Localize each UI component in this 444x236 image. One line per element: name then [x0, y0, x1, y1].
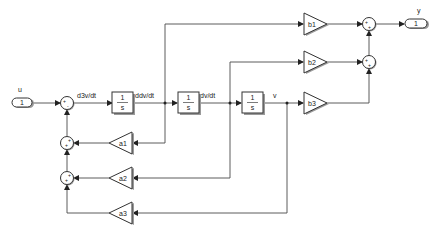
junction-dot: [286, 102, 289, 105]
outport-block[interactable]: 1: [405, 19, 429, 29]
feedback-sum1-block[interactable]: + +: [61, 137, 75, 151]
signal-label-dv: dv/dt: [200, 92, 215, 99]
gain-label: b2: [308, 59, 316, 66]
feedback-sum2-block[interactable]: + +: [61, 172, 75, 186]
junction-dot: [229, 102, 232, 105]
input-sum-block[interactable]: + -: [61, 97, 75, 111]
inport-number: 1: [20, 99, 24, 106]
gain-block-a1[interactable]: a1: [109, 132, 134, 155]
gain-block-a2[interactable]: a2: [109, 167, 134, 190]
sum-sign: +: [368, 62, 371, 68]
inport-signal-label: u: [18, 86, 22, 93]
integrator-denominator: s: [251, 104, 255, 111]
gain-block-a3[interactable]: a3: [109, 202, 134, 225]
gain-label: b1: [308, 21, 316, 28]
inport-block[interactable]: 1: [12, 98, 34, 108]
outport-number: 1: [414, 20, 418, 27]
signal-lines: [32, 24, 404, 213]
block-diagram-canvas: u d3v/dt ddv/dt dv/dt v y 1 1 + - + + + …: [0, 0, 444, 236]
gain-label: a1: [119, 140, 127, 147]
integrator-block-3[interactable]: 1 s: [242, 92, 265, 115]
gain-label: a2: [119, 175, 127, 182]
line-b3-out[interactable]: [327, 69, 369, 103]
gain-block-b1[interactable]: b1: [304, 13, 329, 36]
sum-sign: +: [368, 24, 371, 30]
sum-sign: +: [68, 137, 71, 143]
outport-signal-label: y: [417, 7, 421, 15]
line-ddv-to-b1[interactable]: [165, 24, 303, 103]
junction-dot: [164, 102, 167, 105]
output-sum1-block[interactable]: + +: [363, 18, 377, 32]
sum-sign: +: [65, 177, 68, 183]
integrator-numerator: 1: [251, 94, 255, 101]
line-dv-to-b2[interactable]: [230, 62, 303, 103]
integrator-denominator: s: [187, 104, 191, 111]
sum-sign: +: [68, 172, 71, 178]
gain-label: a3: [119, 210, 127, 217]
signal-label-d3v: d3v/dt: [77, 92, 96, 99]
gain-block-b2[interactable]: b2: [304, 51, 329, 74]
gain-label: b3: [308, 100, 316, 107]
signal-label-v: v: [273, 92, 277, 99]
line-a3-out[interactable]: [67, 185, 109, 213]
signal-label-ddv: ddv/dt: [135, 92, 154, 99]
integrator-numerator: 1: [187, 94, 191, 101]
integrator-denominator: s: [121, 104, 125, 111]
line-ddv-to-a1[interactable]: [133, 103, 165, 143]
sum-sign: +: [65, 142, 68, 148]
sum-sign: +: [63, 98, 66, 104]
integrator-block-1[interactable]: 1 s: [112, 92, 135, 115]
integrator-numerator: 1: [121, 94, 125, 101]
gain-block-b3[interactable]: b3: [304, 92, 329, 115]
line-v-to-a3[interactable]: [133, 103, 287, 213]
output-sum2-block[interactable]: + +: [363, 56, 377, 70]
integrator-block-2[interactable]: 1 s: [178, 92, 201, 115]
